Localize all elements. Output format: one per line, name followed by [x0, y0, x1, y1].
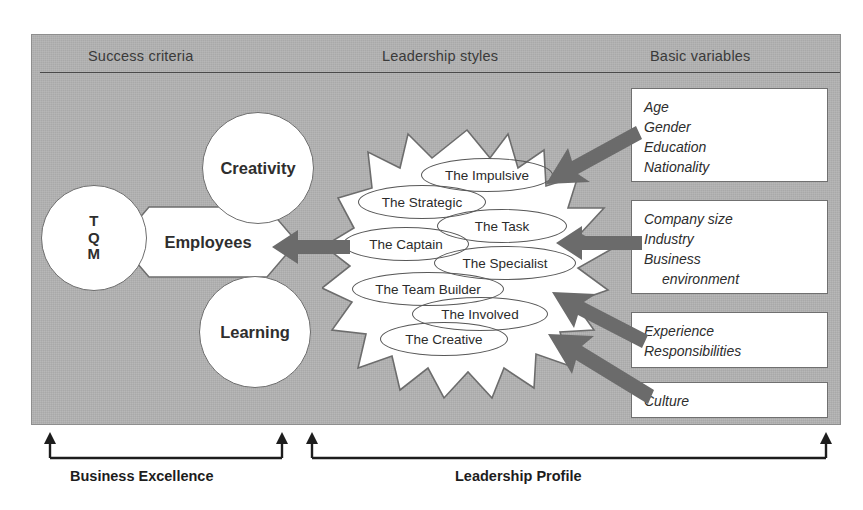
- column-header-basic-variables: Basic variables: [650, 48, 751, 64]
- ellipse-the-creative: The Creative: [380, 322, 508, 356]
- ellipse-label: The Strategic: [382, 195, 462, 210]
- bracket-leadership-profile: [300, 432, 840, 462]
- circle-tqm-line-m: M: [88, 246, 101, 263]
- variable-line: Culture: [644, 392, 827, 412]
- variable-line: Experience: [644, 322, 827, 342]
- ellipse-label: The Involved: [441, 307, 518, 322]
- circle-learning-label: Learning: [220, 323, 290, 342]
- circle-tqm: T Q M: [41, 185, 147, 291]
- figure-canvas: Success criteria Leadership styles Basic…: [0, 0, 863, 510]
- variable-box-company: Company size Industry Business environme…: [631, 200, 828, 294]
- ellipse-label: The Impulsive: [445, 168, 529, 183]
- ellipse-label: The Captain: [369, 237, 443, 252]
- circle-learning: Learning: [199, 276, 311, 388]
- variable-box-experience: Experience Responsibilities: [631, 312, 828, 368]
- column-header-success-criteria: Success criteria: [88, 48, 194, 64]
- variable-line: Gender: [644, 118, 827, 138]
- circle-tqm-line-t: T: [88, 213, 101, 230]
- variable-line: Age: [644, 98, 827, 118]
- circle-creativity: Creativity: [202, 112, 314, 224]
- variable-line: Nationality: [644, 158, 827, 178]
- ellipse-label: The Specialist: [463, 256, 548, 271]
- ellipse-label: The Creative: [405, 332, 482, 347]
- variable-box-culture: Culture: [631, 382, 828, 418]
- bracket-label-leadership-profile: Leadership Profile: [455, 468, 582, 484]
- bracket-business-excellence: [36, 432, 296, 462]
- variable-line: Industry: [644, 230, 827, 250]
- circle-creativity-label: Creativity: [220, 159, 295, 178]
- variable-line: Responsibilities: [644, 342, 827, 362]
- variable-line: Business: [644, 250, 827, 270]
- variable-line: Company size: [644, 210, 827, 230]
- ellipse-label: The Task: [475, 219, 530, 234]
- variable-line: Education: [644, 138, 827, 158]
- column-header-leadership-styles: Leadership styles: [382, 48, 498, 64]
- header-divider-rule: [40, 72, 840, 73]
- variable-line: environment: [644, 270, 827, 290]
- ellipse-label: The Team Builder: [375, 282, 481, 297]
- bracket-label-business-excellence: Business Excellence: [70, 468, 213, 484]
- circle-tqm-line-q: Q: [88, 230, 101, 247]
- variable-box-demographics: Age Gender Education Nationality: [631, 88, 828, 182]
